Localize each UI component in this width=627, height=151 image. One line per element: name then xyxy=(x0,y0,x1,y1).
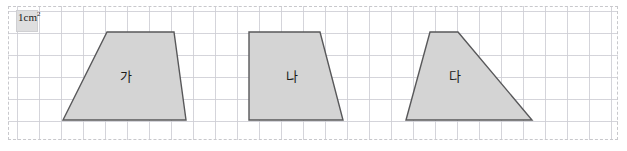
area-worksheet-canvas: 1cm2 가 나 다 xyxy=(0,0,627,151)
shape-na-label: 나 xyxy=(286,69,298,84)
shape-ga-label: 가 xyxy=(120,69,132,84)
shape-da-label: 다 xyxy=(449,69,461,84)
shapes-layer: 가 나 다 xyxy=(0,0,627,151)
shape-da[interactable] xyxy=(406,32,532,120)
